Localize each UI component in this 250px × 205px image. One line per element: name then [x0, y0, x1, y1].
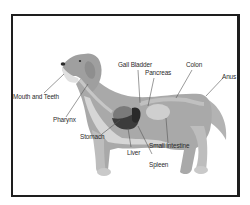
label-mouth-and-teeth: Mouth and Teeth: [13, 94, 59, 100]
label-small-intestine: Small Intestine: [149, 143, 189, 149]
dog-hind-paw: [194, 166, 208, 174]
small-intestine-organ: [146, 104, 170, 120]
leader-mouth: [44, 74, 64, 93]
dog-eye: [79, 60, 81, 62]
leader-anus: [206, 78, 223, 96]
dog-front-paw: [97, 168, 111, 176]
label-anus: Anus: [222, 74, 236, 80]
label-spleen: Spleen: [149, 162, 168, 168]
dog-nose: [61, 62, 66, 66]
label-gall-bladder: Gall Bladder: [118, 62, 152, 68]
dog-illustration: [0, 0, 250, 205]
label-pancreas: Pancreas: [145, 70, 171, 76]
label-stomach: Stomach: [80, 134, 105, 140]
label-colon: Colon: [186, 62, 202, 68]
label-liver: Liver: [127, 150, 140, 156]
label-pharynx: Pharynx: [53, 117, 76, 123]
